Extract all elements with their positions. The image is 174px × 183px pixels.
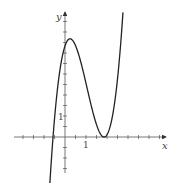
y-tick-label-1: 1 — [58, 112, 64, 122]
cubic-function-graph: x y 1 1 — [0, 0, 174, 183]
x-tick-label-1: 1 — [83, 140, 89, 150]
x-axis-label: x — [162, 140, 168, 151]
cubic-curve — [49, 12, 123, 183]
y-axis-label: y — [55, 11, 62, 22]
